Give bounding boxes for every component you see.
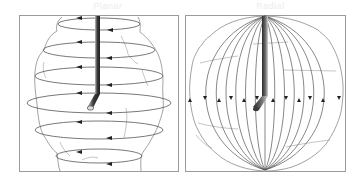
left-panel: Planar xyxy=(0,0,180,184)
planar-loops-diagram xyxy=(0,0,180,184)
loop-arrows xyxy=(76,16,113,166)
radial-meridians-diagram xyxy=(180,0,361,184)
right-panel: Radial xyxy=(180,0,361,184)
